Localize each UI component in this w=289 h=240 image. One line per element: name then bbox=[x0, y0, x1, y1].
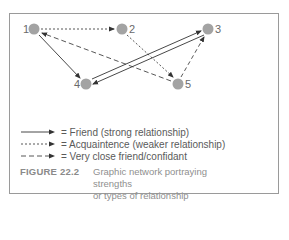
node-2: 2 bbox=[117, 23, 136, 35]
svg-text:5: 5 bbox=[185, 78, 191, 90]
legend-item-friend: = Friend (strong relationship) bbox=[20, 126, 225, 138]
legend-item-confidant: = Very close friend/confidant bbox=[20, 150, 225, 162]
figure-caption: FIGURE 22.2 Graphic network portraying s… bbox=[20, 166, 275, 202]
caption-line-2: or types of relationship bbox=[93, 190, 243, 202]
edge-2-5-acquaintance bbox=[127, 35, 173, 77]
legend: = Friend (strong relationship) = Acquain… bbox=[20, 126, 225, 162]
svg-text:1: 1 bbox=[23, 23, 29, 35]
dashed-arrow-icon bbox=[20, 151, 58, 161]
caption-line-1: Graphic network portraying strengths bbox=[93, 166, 243, 190]
legend-text-confidant: = Very close friend/confidant bbox=[61, 151, 187, 162]
node-5: 5 bbox=[173, 78, 192, 90]
legend-text-acquaintance: = Acquaintence (weaker relationship) bbox=[61, 139, 225, 150]
svg-text:4: 4 bbox=[74, 78, 80, 90]
node-3: 3 bbox=[203, 23, 222, 35]
figure-caption-text: Graphic network portraying strengths or … bbox=[93, 166, 243, 202]
legend-item-acquaintance: = Acquaintence (weaker relationship) bbox=[20, 138, 225, 150]
figure-label: FIGURE 22.2 bbox=[20, 166, 93, 202]
solid-arrow-icon bbox=[20, 127, 58, 137]
legend-text-friend: = Friend (strong relationship) bbox=[61, 127, 189, 138]
svg-text:2: 2 bbox=[129, 23, 135, 35]
node-4: 4 bbox=[74, 78, 92, 90]
svg-text:3: 3 bbox=[215, 23, 221, 35]
edge-3-4-friend bbox=[93, 35, 204, 84]
dotted-arrow-icon bbox=[20, 139, 58, 149]
node-1: 1 bbox=[23, 23, 40, 35]
edge-1-4-friend bbox=[39, 35, 80, 78]
edge-5-3-confidant bbox=[181, 37, 204, 77]
